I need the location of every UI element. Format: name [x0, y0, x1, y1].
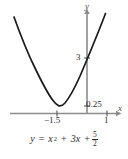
fraction-numerator: 5: [92, 131, 98, 139]
y-value-label-025: 0.25: [86, 100, 102, 109]
parabola-curve: [14, 14, 106, 107]
x-tick-label-neg-1-5: −1.5: [44, 116, 60, 125]
equation-caption: y = x2 + 3x + 5 2: [0, 131, 128, 148]
equation-equals: =: [39, 134, 45, 144]
equation-term2: 3x: [71, 134, 80, 144]
equation-lhs: y: [30, 134, 34, 144]
plot-area: [0, 0, 128, 130]
equation-fraction: 5 2: [92, 131, 98, 148]
equation-row: y = x2 + 3x + 5 2: [30, 131, 98, 148]
equation-term1-base: x: [48, 134, 52, 144]
quadratic-graph-figure: y x 3 0.25 −1.5 1 y = x2 + 3x + 5 2: [0, 0, 128, 159]
y-tick-label-3: 3: [76, 53, 81, 62]
x-axis-label: x: [118, 104, 122, 113]
fraction-denominator: 2: [92, 140, 98, 148]
y-axis-label: y: [85, 2, 89, 11]
equation-plus-1: +: [61, 134, 67, 144]
x-tick-label-1: 1: [104, 116, 109, 125]
equation-plus-2: +: [84, 134, 90, 144]
